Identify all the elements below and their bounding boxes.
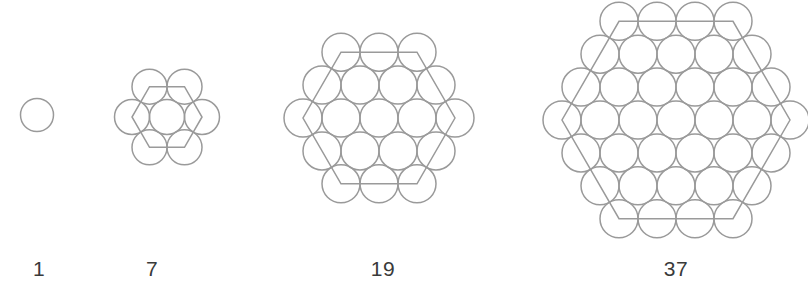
packing-circle [379, 132, 417, 170]
figure-group-1 [21, 99, 54, 132]
centered-hexagonal-numbers-figure: 1 7 19 37 [0, 0, 808, 290]
packing-circle [619, 167, 657, 205]
packing-circle [733, 101, 771, 139]
figure-caption-1: 1 [33, 258, 45, 279]
packing-circle [341, 66, 379, 104]
packing-circle [695, 35, 733, 73]
packing-circle [619, 35, 657, 73]
figure-caption-7: 7 [146, 258, 158, 279]
packing-circle [341, 132, 379, 170]
packing-circle [322, 99, 360, 137]
packing-circle [714, 134, 752, 172]
figure-caption-37: 37 [664, 258, 688, 279]
packing-circle [600, 68, 638, 106]
packing-circle [714, 68, 752, 106]
packing-circle [360, 99, 398, 137]
packing-circle [619, 101, 657, 139]
hexagon-outline [562, 21, 790, 218]
figure-group-19 [284, 33, 474, 203]
packing-circle [657, 35, 695, 73]
figure-group-7 [115, 69, 220, 165]
packing-circle [600, 134, 638, 172]
packing-circle [657, 101, 695, 139]
packing-circle [379, 66, 417, 104]
figures-group [21, 2, 808, 237]
packing-circle [581, 101, 619, 139]
packing-circle [150, 100, 185, 135]
packing-circle [695, 167, 733, 205]
packing-circle [676, 68, 714, 106]
packing-circle [638, 134, 676, 172]
packing-circle [676, 134, 714, 172]
hexagon-outline [132, 87, 202, 148]
packing-circle [398, 99, 436, 137]
packing-circle [638, 68, 676, 106]
packing-circle [695, 101, 733, 139]
figure-caption-19: 19 [371, 258, 395, 279]
figure-group-37 [543, 2, 808, 237]
packing-circle [657, 167, 695, 205]
hexagonal-packing-canvas [0, 0, 808, 290]
packing-circle [21, 99, 54, 132]
